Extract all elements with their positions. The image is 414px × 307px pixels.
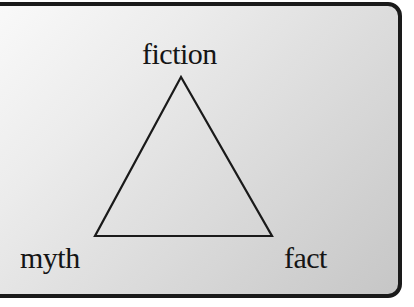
triangle-shape bbox=[95, 77, 272, 236]
vertex-label-fact: fact bbox=[284, 243, 327, 273]
vertex-label-myth: myth bbox=[20, 243, 80, 273]
vertex-label-fiction: fiction bbox=[142, 39, 217, 69]
diagram-stage: fiction myth fact bbox=[0, 0, 414, 307]
